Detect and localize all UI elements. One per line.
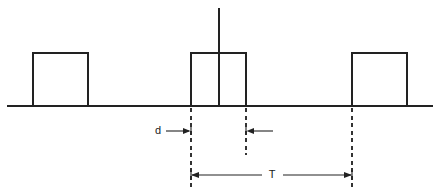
pulse-width-label: d: [155, 124, 161, 136]
pulse-1: [33, 53, 88, 106]
arrow-right-icon: [344, 172, 352, 178]
waveform-canvas: d T: [0, 0, 440, 195]
arrow-right-icon: [183, 128, 191, 134]
pulse-3: [352, 53, 407, 106]
arrow-left-icon: [191, 172, 199, 178]
pulse-train-diagram: d T: [0, 0, 440, 195]
arrow-left-icon: [247, 128, 255, 134]
period-label: T: [269, 168, 276, 180]
